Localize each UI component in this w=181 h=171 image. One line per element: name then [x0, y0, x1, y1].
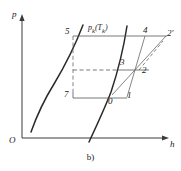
- state-point-label-5: 5: [65, 27, 70, 36]
- origin-label: O: [9, 136, 16, 145]
- y-axis: [19, 14, 24, 138]
- state-point-label-7: 7: [64, 90, 69, 99]
- state-point-label-0: 0: [108, 97, 113, 106]
- saturated-vapor-curve: [89, 26, 127, 142]
- y-axis-label: p: [12, 10, 17, 19]
- state-point-label-4: 4: [143, 26, 148, 35]
- figure-container: p h O pk(Tk) 5 4 2' 3 2 7 0 1 b): [0, 0, 181, 171]
- state-point-label-3: 3: [120, 58, 125, 67]
- saturation-pressure-annotation: pk(Tk): [88, 24, 108, 34]
- sat-pressure-paren-close: ): [105, 23, 108, 32]
- x-axis: [22, 135, 169, 140]
- x-axis-label: h: [170, 140, 175, 149]
- state-point-label-2: 2: [142, 66, 147, 75]
- state-point-label-2-prime: 2': [167, 29, 173, 38]
- state-point-label-1: 1: [127, 91, 132, 100]
- figure-caption: b): [0, 152, 181, 162]
- saturated-liquid-curve: [31, 25, 83, 132]
